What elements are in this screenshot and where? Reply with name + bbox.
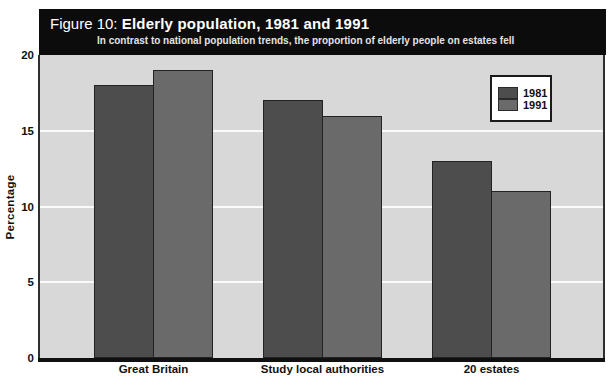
bar-1991-study-local-authorities	[322, 116, 382, 358]
x-axis-line	[38, 358, 605, 362]
figure-title: Elderly population, 1981 and 1991	[122, 15, 370, 32]
legend-item-1981: 1981	[498, 87, 550, 99]
bar-1981-study-local-authorities	[263, 100, 323, 358]
chart-legend: 19811991	[490, 75, 552, 122]
y-tick-5: 5	[0, 276, 34, 288]
figure-header: Figure 10: Elderly population, 1981 and …	[39, 9, 606, 55]
y-tick-10: 10	[0, 201, 34, 213]
bar-1991-great-britain	[153, 70, 213, 358]
bar-1991-20-estates	[491, 191, 551, 358]
legend-swatch-1991	[498, 99, 518, 111]
y-tick-15: 15	[0, 125, 34, 137]
legend-label-1981: 1981	[523, 87, 547, 99]
x-label-study-local-authorities: Study local authorities	[261, 363, 384, 375]
bar-1981-great-britain	[94, 85, 154, 358]
legend-swatch-1981	[498, 87, 518, 99]
figure-number-label: Figure 10:	[50, 15, 118, 32]
bar-1981-20-estates	[432, 161, 492, 358]
plot-area: 19811991	[38, 55, 605, 358]
y-tick-20: 20	[0, 49, 34, 61]
legend-items: 19811991	[498, 87, 550, 111]
legend-label-1991: 1991	[523, 99, 547, 111]
x-label-great-britain: Great Britain	[119, 363, 189, 375]
figure-10-elderly-population-chart: Figure 10: Elderly population, 1981 and …	[0, 0, 612, 377]
figure-title-line: Figure 10: Elderly population, 1981 and …	[39, 9, 606, 33]
y-tick-0: 0	[0, 352, 34, 364]
x-label-20-estates: 20 estates	[464, 363, 520, 375]
figure-subtitle: In contrast to national population trend…	[39, 33, 606, 47]
legend-item-1991: 1991	[498, 99, 550, 111]
